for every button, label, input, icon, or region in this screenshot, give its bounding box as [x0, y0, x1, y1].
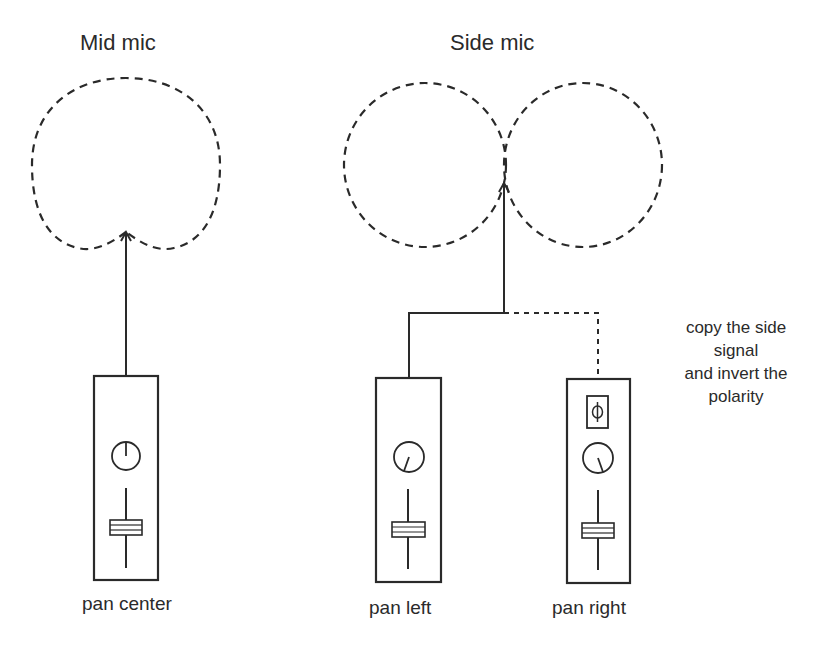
mid-mic-title: Mid mic [80, 30, 156, 56]
side-to-left-line [409, 313, 504, 378]
side-mic-title: Side mic [450, 30, 534, 56]
side-to-right-dashed-line [504, 313, 598, 378]
polarity-annotation: copy the side signal and invert the pola… [651, 316, 821, 408]
figure8-left-lobe-icon [344, 83, 506, 247]
annotation-line: copy the side [651, 316, 821, 339]
caption-pan-left: pan left [369, 597, 431, 619]
figure8-right-lobe-icon [504, 83, 662, 247]
annotation-line: and invert the [651, 362, 821, 385]
polarity-invert-button[interactable] [587, 396, 608, 428]
annotation-line: signal [651, 339, 821, 362]
fader-cap-right-icon[interactable] [582, 523, 614, 538]
channel-strip-right[interactable] [567, 379, 630, 583]
annotation-line: polarity [651, 385, 821, 408]
cardioid-pattern-icon [32, 78, 220, 249]
channel-strip-center[interactable] [94, 376, 158, 580]
channel-strip-left[interactable] [376, 378, 441, 582]
caption-pan-right: pan right [552, 597, 626, 619]
caption-pan-center: pan center [82, 593, 172, 615]
fader-cap-left-icon[interactable] [392, 522, 425, 537]
fader-cap-center-icon[interactable] [110, 520, 142, 535]
